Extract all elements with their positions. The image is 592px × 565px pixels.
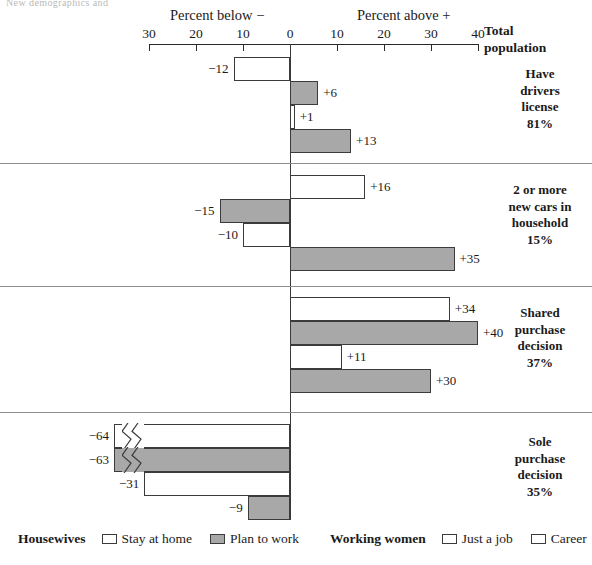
axis-caption-below: Percent below − bbox=[170, 7, 264, 24]
axis-break-zigzag-g3-s0 bbox=[122, 423, 148, 449]
group-caption-0-line-1: drivers bbox=[492, 83, 588, 100]
axis-tick-label-1: 20 bbox=[189, 26, 203, 42]
axis-tick-1 bbox=[196, 44, 197, 51]
chart-canvas: New demographics and Percent below − Per… bbox=[0, 0, 592, 565]
bar-value-label-g0-s1: +6 bbox=[323, 85, 337, 101]
legend-label-plan-to-work: Plan to work bbox=[230, 531, 299, 547]
axis-tick-label-5: 20 bbox=[377, 26, 391, 42]
bar-value-label-g2-s2: +11 bbox=[347, 349, 367, 365]
legend-label-stay-at-home: Stay at home bbox=[122, 531, 193, 547]
bar-value-label-g0-s3: +13 bbox=[356, 133, 376, 149]
axis-break-zigzag-g3-s1 bbox=[122, 447, 148, 473]
group-caption-0-line-3: 81% bbox=[492, 116, 588, 133]
axis-tick-7 bbox=[478, 44, 479, 51]
bar-value-label-g0-s2: +1 bbox=[300, 109, 314, 125]
bar-g1-s0[interactable] bbox=[290, 175, 365, 199]
bar-value-label-g3-s1: −63 bbox=[89, 452, 109, 468]
legend-label-just-a-job: Just a job bbox=[462, 531, 513, 547]
bar-value-label-g1-s1: −15 bbox=[194, 203, 214, 219]
bar-value-label-g2-s3: +30 bbox=[436, 373, 456, 389]
bar-value-label-g1-s0: +16 bbox=[370, 179, 390, 195]
legend-group-working-women: Working women Just a job Career bbox=[330, 531, 587, 547]
group-caption-3-line-3: 35% bbox=[492, 484, 588, 501]
total-population-line1: Total bbox=[484, 22, 588, 39]
cropped-header-text: New demographics and bbox=[6, 0, 108, 8]
group-separator-0 bbox=[0, 163, 592, 164]
axis-ruler-line bbox=[149, 44, 478, 45]
legend: Housewives Stay at home Plan to work Wor… bbox=[0, 531, 592, 551]
axis-tick-6 bbox=[431, 44, 432, 51]
total-population-line2: population bbox=[484, 39, 588, 56]
axis-tick-5 bbox=[384, 44, 385, 51]
bar-g2-s3[interactable] bbox=[290, 369, 431, 393]
bar-g0-s2[interactable] bbox=[290, 105, 295, 129]
group-caption-3: Solepurchasedecision35% bbox=[492, 434, 588, 501]
group-caption-1-line-2: household bbox=[492, 215, 588, 232]
bar-g1-s1[interactable] bbox=[220, 199, 291, 223]
bar-value-label-g3-s2: −31 bbox=[119, 476, 139, 492]
legend-swatch-just-a-job[interactable] bbox=[442, 534, 457, 544]
bar-g3-s2[interactable] bbox=[144, 472, 290, 496]
bar-value-label-g0-s0: −12 bbox=[208, 61, 228, 77]
legend-swatch-career[interactable] bbox=[531, 534, 546, 544]
legend-working-women-title: Working women bbox=[330, 531, 426, 547]
axis-tick-label-0: 30 bbox=[142, 26, 156, 42]
group-caption-1-line-3: 15% bbox=[492, 232, 588, 249]
legend-group-housewives: Housewives Stay at home Plan to work bbox=[18, 531, 299, 547]
legend-housewives-title: Housewives bbox=[18, 531, 86, 547]
bar-value-label-g2-s0: +34 bbox=[455, 301, 475, 317]
bar-value-label-g3-s3: −9 bbox=[229, 500, 243, 516]
bar-g2-s2[interactable] bbox=[290, 345, 342, 369]
legend-label-career: Career bbox=[551, 531, 587, 547]
axis-tick-4 bbox=[337, 44, 338, 51]
legend-swatch-stay-at-home[interactable] bbox=[102, 534, 117, 544]
group-caption-0: Havedriverslicense81% bbox=[492, 66, 588, 133]
group-separator-1 bbox=[0, 286, 592, 287]
group-caption-0-line-2: license bbox=[492, 99, 588, 116]
bar-g3-s3[interactable] bbox=[248, 496, 290, 520]
bar-g1-s3[interactable] bbox=[290, 247, 455, 271]
axis-tick-label-7: 40 bbox=[471, 26, 485, 42]
axis-tick-label-4: 10 bbox=[330, 26, 344, 42]
group-caption-2-line-2: decision bbox=[492, 338, 588, 355]
bar-g0-s1[interactable] bbox=[290, 81, 318, 105]
group-separator-2 bbox=[0, 412, 592, 413]
group-caption-3-line-2: decision bbox=[492, 467, 588, 484]
bar-value-label-g1-s3: +35 bbox=[460, 251, 480, 267]
bar-g0-s3[interactable] bbox=[290, 129, 351, 153]
legend-swatch-plan-to-work[interactable] bbox=[210, 534, 225, 544]
group-caption-2: Sharedpurchasedecision37% bbox=[492, 305, 588, 372]
group-caption-3-line-0: Sole bbox=[492, 434, 588, 451]
group-caption-2-line-0: Shared bbox=[492, 305, 588, 322]
group-caption-2-line-3: 37% bbox=[492, 355, 588, 372]
axis-tick-label-3: 0 bbox=[287, 26, 294, 42]
bar-g0-s0[interactable] bbox=[234, 57, 290, 81]
bar-value-label-g1-s2: −10 bbox=[218, 227, 238, 243]
group-caption-1-line-0: 2 or more bbox=[492, 182, 588, 199]
group-caption-3-line-1: purchase bbox=[492, 451, 588, 468]
group-caption-2-line-1: purchase bbox=[492, 322, 588, 339]
group-caption-1: 2 or morenew cars inhousehold15% bbox=[492, 182, 588, 249]
total-population-label: Total population bbox=[484, 22, 588, 57]
axis-tick-0 bbox=[149, 44, 150, 51]
bar-value-label-g3-s0: −64 bbox=[89, 428, 109, 444]
axis-tick-2 bbox=[243, 44, 244, 51]
group-caption-1-line-1: new cars in bbox=[492, 199, 588, 216]
axis-tick-label-2: 10 bbox=[236, 26, 250, 42]
bar-g2-s1[interactable] bbox=[290, 321, 478, 345]
bar-g2-s0[interactable] bbox=[290, 297, 450, 321]
axis-caption-above: Percent above + bbox=[357, 7, 451, 24]
axis-tick-label-6: 30 bbox=[424, 26, 438, 42]
group-caption-0-line-0: Have bbox=[492, 66, 588, 83]
bar-g1-s2[interactable] bbox=[243, 223, 290, 247]
